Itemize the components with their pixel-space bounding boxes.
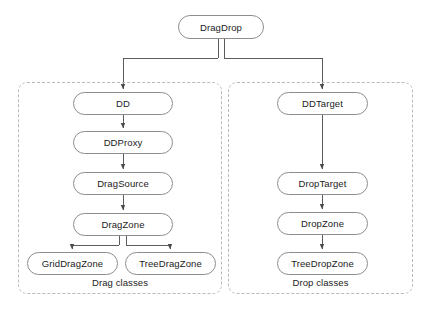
node-dragzone[interactable]: DragZone — [73, 213, 173, 236]
drop-classes-label: Drop classes — [228, 277, 413, 288]
drag-classes-label: Drag classes — [18, 277, 222, 288]
node-dragsource[interactable]: DragSource — [73, 172, 173, 195]
node-dd[interactable]: DD — [73, 92, 173, 115]
node-treedragzone[interactable]: TreeDragZone — [125, 252, 216, 275]
node-ddproxy[interactable]: DDProxy — [73, 131, 173, 154]
node-dragdrop[interactable]: DragDrop — [178, 15, 264, 39]
node-droptarget[interactable]: DropTarget — [277, 172, 368, 195]
node-treedropzone[interactable]: TreeDropZone — [277, 252, 368, 275]
node-ddtarget[interactable]: DDTarget — [277, 92, 368, 115]
node-dropzone[interactable]: DropZone — [277, 212, 368, 235]
class-hierarchy-diagram: Drag classes Drop classes DragDrop DD DD… — [0, 0, 429, 313]
node-griddragzone[interactable]: GridDragZone — [27, 252, 118, 275]
